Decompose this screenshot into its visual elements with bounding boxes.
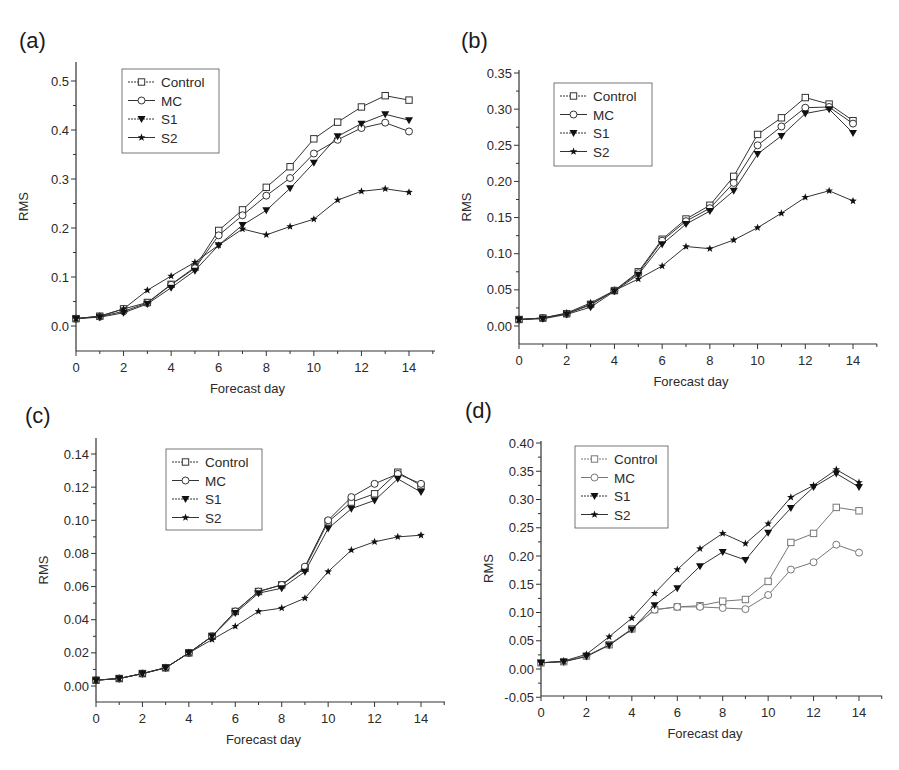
marker-star-icon bbox=[358, 187, 366, 194]
y-axis-label: RMS bbox=[36, 555, 51, 584]
y-axis-label: RMS bbox=[16, 192, 31, 221]
marker-square-icon bbox=[765, 578, 771, 584]
x-tick-label: 10 bbox=[321, 711, 335, 726]
marker-square-icon bbox=[810, 530, 816, 536]
x-axis-label: Forecast day bbox=[653, 374, 729, 389]
marker-circle-icon bbox=[287, 175, 294, 182]
marker-star-icon bbox=[730, 236, 738, 243]
x-tick-label: 10 bbox=[761, 705, 775, 720]
marker-triangle-icon bbox=[706, 208, 714, 215]
chart-panel-a: 024681012140.00.10.20.30.40.5Forecast da… bbox=[16, 62, 435, 396]
marker-triangle-icon bbox=[324, 526, 332, 533]
marker-star-icon bbox=[754, 224, 762, 231]
legend: ControlMCS1S2 bbox=[554, 83, 652, 166]
y-tick-label: 0.2 bbox=[51, 221, 69, 236]
marker-triangle-icon bbox=[777, 133, 785, 140]
x-axis-label: Forecast day bbox=[226, 732, 302, 747]
marker-square-icon bbox=[591, 456, 597, 462]
y-tick-label: 0.35 bbox=[509, 464, 534, 479]
x-tick-label: 10 bbox=[750, 353, 764, 368]
marker-star-icon bbox=[787, 493, 795, 500]
marker-circle-icon bbox=[406, 128, 413, 135]
marker-circle-icon bbox=[674, 603, 681, 610]
y-tick-label: 0.0 bbox=[51, 319, 69, 334]
marker-star-icon bbox=[825, 187, 833, 194]
series-mc bbox=[538, 541, 863, 666]
legend-label: S2 bbox=[593, 145, 610, 160]
x-tick-label: 14 bbox=[402, 360, 416, 375]
marker-square-icon bbox=[406, 97, 412, 103]
legend-label: Control bbox=[593, 89, 637, 104]
marker-square-icon bbox=[138, 79, 144, 85]
x-tick-label: 4 bbox=[628, 705, 635, 720]
legend-label: S1 bbox=[161, 112, 178, 127]
series-control bbox=[538, 504, 862, 666]
marker-square-icon bbox=[778, 115, 784, 121]
marker-triangle-icon bbox=[167, 285, 175, 292]
y-tick-label: 0.40 bbox=[509, 436, 534, 451]
marker-circle-icon bbox=[591, 474, 598, 481]
x-axis-label: Forecast day bbox=[667, 726, 743, 741]
legend-label: S2 bbox=[161, 131, 178, 146]
marker-circle-icon bbox=[856, 549, 863, 556]
x-tick-label: 0 bbox=[515, 353, 522, 368]
x-tick-label: 2 bbox=[563, 353, 570, 368]
x-tick-label: 6 bbox=[232, 711, 239, 726]
marker-triangle-icon bbox=[754, 151, 762, 158]
marker-triangle-icon bbox=[405, 117, 413, 124]
y-tick-label: 0.14 bbox=[64, 447, 89, 462]
y-tick-label: 0.04 bbox=[64, 612, 89, 627]
marker-triangle-icon bbox=[417, 489, 425, 496]
x-tick-label: 8 bbox=[719, 705, 726, 720]
chart-panel-b: 024681012140.000.050.100.150.200.250.300… bbox=[459, 66, 877, 390]
x-tick-label: 6 bbox=[674, 705, 681, 720]
legend: ControlMCS1S2 bbox=[575, 446, 668, 528]
x-tick-label: 0 bbox=[92, 711, 99, 726]
marker-star-icon bbox=[417, 531, 425, 538]
x-axis-label: Forecast day bbox=[210, 381, 286, 396]
figure-canvas: 024681012140.00.10.20.30.40.5Forecast da… bbox=[0, 0, 899, 770]
legend-label: Control bbox=[205, 455, 249, 470]
marker-circle-icon bbox=[719, 604, 726, 611]
legend-label: MC bbox=[593, 108, 614, 123]
marker-circle-icon bbox=[348, 494, 355, 501]
marker-square-icon bbox=[311, 136, 317, 142]
x-tick-label: 12 bbox=[798, 353, 812, 368]
marker-square-icon bbox=[263, 184, 269, 190]
marker-square-icon bbox=[382, 93, 388, 99]
series-line bbox=[519, 191, 853, 320]
marker-circle-icon bbox=[570, 111, 577, 118]
series-s2 bbox=[92, 531, 425, 683]
marker-square-icon bbox=[287, 164, 293, 170]
legend-label: MC bbox=[161, 94, 182, 109]
y-tick-label: 0.20 bbox=[487, 174, 512, 189]
marker-triangle-icon bbox=[673, 585, 681, 592]
marker-square-icon bbox=[720, 598, 726, 604]
marker-circle-icon bbox=[697, 603, 704, 610]
x-tick-label: 4 bbox=[168, 360, 175, 375]
y-tick-label: 0.35 bbox=[487, 66, 512, 81]
legend: ControlMCS1S2 bbox=[122, 69, 219, 153]
x-tick-label: 14 bbox=[852, 705, 866, 720]
marker-circle-icon bbox=[239, 212, 246, 219]
y-tick-label: 0.25 bbox=[487, 138, 512, 153]
x-tick-label: 4 bbox=[185, 711, 192, 726]
y-tick-label: 0.08 bbox=[64, 546, 89, 561]
marker-square-icon bbox=[833, 504, 839, 510]
y-tick-label: 0.10 bbox=[509, 605, 534, 620]
marker-circle-icon bbox=[850, 120, 857, 127]
x-tick-label: 12 bbox=[806, 705, 820, 720]
y-tick-label: -0.05 bbox=[504, 690, 534, 705]
legend-label: Control bbox=[161, 75, 205, 90]
marker-star-icon bbox=[262, 231, 270, 238]
x-tick-label: 8 bbox=[706, 353, 713, 368]
marker-star-icon bbox=[706, 245, 714, 252]
marker-circle-icon bbox=[754, 142, 761, 149]
x-tick-label: 12 bbox=[367, 711, 381, 726]
legend-label: S1 bbox=[614, 489, 631, 504]
legend-label: MC bbox=[614, 471, 635, 486]
y-tick-label: 0.5 bbox=[51, 74, 69, 89]
series-s2 bbox=[72, 185, 413, 322]
marker-circle-icon bbox=[371, 480, 378, 487]
marker-circle-icon bbox=[325, 517, 332, 524]
